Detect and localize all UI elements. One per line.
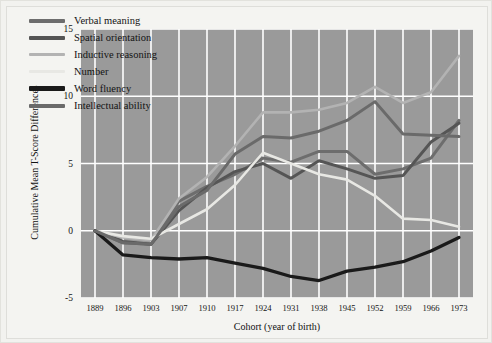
legend-item[interactable]: Intellectual ability [29, 98, 157, 113]
x-axis-tick-label: 1917 [226, 303, 243, 313]
chart-legend: Verbal meaningSpatial orientationInducti… [29, 13, 157, 113]
x-axis-tick-label: 1959 [394, 303, 411, 313]
series-line [95, 120, 459, 244]
x-axis-tick-label: 1907 [170, 303, 187, 313]
legend-item-label: Spatial orientation [74, 32, 151, 43]
x-axis-title: Cohort (year of birth) [81, 321, 473, 332]
legend-item-label: Inductive reasoning [74, 49, 157, 60]
y-axis-tick-label: 0 [68, 226, 73, 236]
x-axis-tick-label: 1903 [142, 303, 159, 313]
legend-item[interactable]: Spatial orientation [29, 30, 157, 45]
y-axis-tick-label: -5 [65, 293, 73, 303]
figure-inner-frame: 151050-5 1889189619031907191019171924193… [6, 6, 488, 339]
legend-color-swatch [29, 104, 65, 108]
x-axis-tick-label: 1889 [86, 303, 103, 313]
figure-container: 151050-5 1889189619031907191019171924193… [0, 0, 492, 343]
legend-item-label: Word fluency [74, 83, 131, 94]
x-axis-tick-label: 1945 [338, 303, 355, 313]
legend-color-swatch [29, 70, 65, 73]
x-axis-tick-label: 1952 [366, 303, 383, 313]
x-axis-tick-label: 1966 [422, 303, 439, 313]
legend-item-label: Number [74, 66, 108, 77]
x-axis-tick-label: 1931 [282, 303, 299, 313]
legend-color-swatch [29, 36, 65, 40]
legend-color-swatch [29, 86, 65, 91]
x-axis-tick-label: 1896 [114, 303, 131, 313]
legend-color-swatch [29, 53, 65, 56]
x-axis-tick-label: 1973 [450, 303, 467, 313]
x-axis-tick-label: 1924 [254, 303, 271, 313]
legend-item[interactable]: Verbal meaning [29, 13, 157, 28]
legend-item[interactable]: Word fluency [29, 81, 157, 96]
y-axis-tick-label: 5 [68, 159, 73, 169]
x-axis-tick-label: 1938 [310, 303, 327, 313]
legend-item[interactable]: Number [29, 64, 157, 79]
legend-item[interactable]: Inductive reasoning [29, 47, 157, 62]
series-line [95, 123, 459, 244]
legend-item-label: Intellectual ability [74, 100, 151, 111]
legend-color-swatch [29, 19, 65, 23]
x-axis-tick-label: 1910 [198, 303, 215, 313]
series-line [95, 153, 459, 239]
legend-item-label: Verbal meaning [74, 15, 140, 26]
